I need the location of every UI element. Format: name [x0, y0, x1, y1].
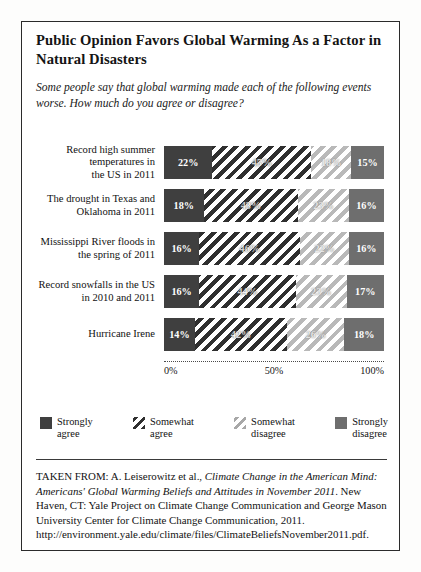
bar-segment-value: 26% — [287, 329, 344, 340]
legend-item-swa: Somewhat agree — [133, 416, 194, 440]
chart-row-label-line: The drought in Texas and — [36, 193, 155, 205]
bar-segment-value: 18% — [344, 329, 384, 340]
legend-label: Somewhat disagree — [251, 416, 295, 440]
bar-segment-value: 42% — [195, 329, 287, 340]
chart-row-label-line: temperatures in — [36, 156, 155, 168]
chart-row-label-line: in 2010 and 2011 — [36, 292, 155, 304]
chart-row-label-line: the US in 2011 — [36, 169, 155, 181]
bar-segment-value: 18% — [164, 200, 204, 211]
legend-label: Strongly disagree — [352, 416, 388, 440]
axis-tick-0: 0% — [164, 365, 178, 376]
bar-segment-value: 18% — [311, 157, 351, 168]
stacked-bar: 14%42%26%18% — [164, 318, 384, 351]
bar-segment-sa: 22% — [164, 146, 212, 179]
chart-row-label-line: Hurricane Irene — [36, 328, 155, 340]
bar-segment-sd: 15% — [351, 146, 384, 179]
legend-swatch-swa-icon — [133, 417, 145, 429]
stacked-bar: 22%45%18%15% — [164, 146, 384, 179]
source-divider — [36, 459, 387, 460]
bar-segment-value: 45% — [212, 157, 311, 168]
legend-item-sd: Strongly disagree — [335, 416, 388, 440]
source-citation: TAKEN FROM: A. Leiserowitz et al., Clima… — [36, 469, 389, 542]
legend-label: Strongly agree — [57, 416, 93, 440]
figure-subtitle: Some people say that global warming made… — [36, 80, 387, 111]
bar-segment-value: 22% — [164, 157, 212, 168]
chart-row-label: Record high summertemperatures inthe US … — [36, 144, 164, 181]
stacked-bar: 16%46%22%16% — [164, 232, 384, 265]
axis-tick-100: 100% — [360, 365, 384, 376]
bar-segment-value: 22% — [300, 243, 348, 254]
bar-segment-value: 16% — [349, 200, 384, 211]
bar-segment-value: 17% — [347, 286, 384, 297]
bar-segment-swa: 43% — [204, 189, 299, 222]
chart-row-label-line: Mississippi River floods in — [36, 236, 155, 248]
chart-row: Record high summertemperatures inthe US … — [36, 146, 387, 179]
bar-segment-value: 23% — [298, 200, 349, 211]
legend-swatch-sd-icon — [335, 417, 347, 429]
bar-segment-sa: 18% — [164, 189, 204, 222]
bar-segment-sd: 17% — [347, 275, 384, 308]
chart-row-label-line: Record high summer — [36, 144, 155, 156]
chart-row-label-line: the spring of 2011 — [36, 249, 155, 261]
bar-segment-swd: 18% — [311, 146, 351, 179]
bar-segment-swa: 45% — [212, 146, 311, 179]
chart-row-label: Record snowfalls in the USin 2010 and 20… — [36, 279, 164, 304]
page-title: Public Opinion Favors Global Warming As … — [36, 31, 387, 69]
chart-row-label-line: Oklahoma in 2011 — [36, 206, 155, 218]
axis-line — [164, 361, 384, 362]
chart-row-label: The drought in Texas andOklahoma in 2011 — [36, 193, 164, 218]
bar-segment-value: 16% — [349, 243, 384, 254]
bar-segment-value: 44% — [199, 286, 296, 297]
bar-segment-value: 16% — [164, 243, 199, 254]
source-prefix: TAKEN FROM: A. Leiserowitz et al., — [36, 470, 205, 482]
chart-row-label: Hurricane Irene — [36, 328, 164, 340]
bar-segment-value: 43% — [204, 200, 299, 211]
legend-label: Somewhat agree — [150, 416, 194, 440]
bar-segment-swa: 46% — [199, 232, 300, 265]
bar-segment-value: 16% — [164, 286, 199, 297]
bar-segment-value: 15% — [351, 157, 384, 168]
bar-segment-swd: 26% — [287, 318, 344, 351]
bar-segment-sd: 16% — [349, 189, 384, 222]
bar-segment-swd: 23% — [296, 275, 347, 308]
legend-item-sa: Strongly agree — [40, 416, 93, 440]
stacked-bar: 18%43%23%16% — [164, 189, 384, 222]
figure-frame: Public Opinion Favors Global Warming As … — [21, 21, 400, 551]
chart-row: The drought in Texas andOklahoma in 2011… — [36, 189, 387, 222]
figure-page: Public Opinion Favors Global Warming As … — [0, 0, 421, 572]
chart-x-axis: 0% 50% 100% — [164, 361, 384, 381]
bar-segment-sa: 16% — [164, 232, 199, 265]
bar-segment-value: 23% — [296, 286, 347, 297]
legend-swatch-swd-icon — [234, 417, 246, 429]
chart-row-label: Mississippi River floods inthe spring of… — [36, 236, 164, 261]
bar-segment-swa: 44% — [199, 275, 296, 308]
stacked-bar-chart: Record high summertemperatures inthe US … — [36, 146, 387, 381]
bar-segment-swd: 22% — [300, 232, 348, 265]
bar-segment-sd: 16% — [349, 232, 384, 265]
axis-tick-labels: 0% 50% 100% — [164, 365, 384, 381]
chart-legend: Strongly agreeSomewhat agreeSomewhat dis… — [40, 416, 388, 440]
legend-item-swd: Somewhat disagree — [234, 416, 295, 440]
chart-row: Hurricane Irene14%42%26%18% — [36, 318, 387, 351]
stacked-bar: 16%44%23%17% — [164, 275, 384, 308]
chart-row-label-line: Record snowfalls in the US — [36, 279, 155, 291]
bar-segment-swd: 23% — [298, 189, 349, 222]
bar-segment-swa: 42% — [195, 318, 287, 351]
bar-segment-sd: 18% — [344, 318, 384, 351]
bar-segment-sa: 14% — [164, 318, 195, 351]
chart-row: Record snowfalls in the USin 2010 and 20… — [36, 275, 387, 308]
bar-segment-value: 46% — [199, 243, 300, 254]
figure-header: Public Opinion Favors Global Warming As … — [36, 31, 387, 111]
bar-segment-value: 14% — [164, 329, 195, 340]
chart-rows: Record high summertemperatures inthe US … — [36, 146, 387, 351]
bar-segment-sa: 16% — [164, 275, 199, 308]
chart-row: Mississippi River floods inthe spring of… — [36, 232, 387, 265]
axis-tick-50: 50% — [265, 365, 284, 376]
legend-swatch-sa-icon — [40, 417, 52, 429]
